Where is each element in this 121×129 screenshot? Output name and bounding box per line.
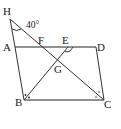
angle-circle-C2 xyxy=(95,96,97,98)
point-label-B: B xyxy=(15,96,22,108)
point-label-H: H xyxy=(3,5,11,17)
angle-label-40: 40° xyxy=(26,20,40,30)
point-label-D: D xyxy=(97,41,105,53)
angle-dot-B2 xyxy=(28,97,30,99)
geometry-diagram: H 40° A F E D G B C xyxy=(0,0,121,129)
point-label-C: C xyxy=(104,98,111,110)
angle-circle-C1 xyxy=(98,91,100,93)
angle-dot-B1 xyxy=(25,94,27,96)
point-label-G: G xyxy=(54,63,62,75)
point-label-E: E xyxy=(62,34,69,46)
point-label-A: A xyxy=(3,41,11,53)
segment-BA xyxy=(15,47,24,100)
angle-arc-H xyxy=(12,29,21,31)
point-label-F: F xyxy=(38,34,44,46)
